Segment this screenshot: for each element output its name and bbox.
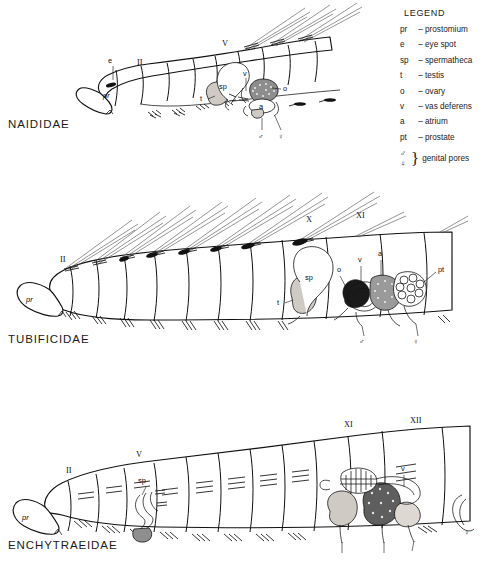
segment-numeral-x: X <box>306 215 312 224</box>
label-testis: t <box>200 94 202 103</box>
segment-numeral-ii: II <box>66 466 72 475</box>
segment-numeral-xi: XI <box>356 211 365 220</box>
oligochaete-anatomy-plate: e pr II V t sp v o a ♂ ♀ <box>0 0 499 565</box>
legend-genital-pores: ♂ ♀ } genital pores <box>400 149 499 168</box>
naididae-body <box>76 3 362 118</box>
segment-numeral-ii: II <box>60 255 66 264</box>
legend-entry-sp: sp–spermatheca <box>400 57 499 65</box>
legend-dash: – <box>416 72 425 80</box>
label-eye: e <box>108 56 112 65</box>
segment-numeral-xi: XI <box>344 420 353 429</box>
label-ovary: o <box>381 554 385 555</box>
legend-dash: – <box>416 57 425 65</box>
legend-term: spermatheca <box>425 57 472 65</box>
label-male-pore: ♂ <box>409 552 415 555</box>
tubificidae-body <box>17 192 468 330</box>
legend-title: LEGEND <box>404 8 499 18</box>
legend-dash: – <box>416 118 425 126</box>
label-ovary: o <box>337 265 341 274</box>
segment-numeral-xii: XII <box>410 416 422 425</box>
legend-rows: pr–prostomiume–eye spotsp–spermathecat–t… <box>400 26 499 142</box>
testis-organ <box>328 491 358 526</box>
legend-entry-pr: pr–prostomium <box>400 26 499 34</box>
legend-dash: – <box>416 26 425 34</box>
label-female-pore: ♀ <box>413 337 419 346</box>
label-testis: t <box>339 554 341 555</box>
brace-icon: } <box>411 152 419 166</box>
legend-abbr: pr <box>400 26 416 34</box>
legend-term: ovary <box>425 88 445 96</box>
enchytraeidae-body <box>13 426 474 543</box>
legend-term: testis <box>425 72 444 80</box>
family-label-naididae: NAIDIDAE <box>8 118 70 130</box>
male-symbol: ♂ <box>400 149 410 158</box>
legend-panel: LEGEND pr–prostomiume–eye spotsp–spermat… <box>400 8 499 168</box>
genital-pores-term: genital pores <box>422 154 469 163</box>
legend-abbr: sp <box>400 57 416 65</box>
enchytraeidae-diagram: pr II V XI XII sp v t o ♂ ♀ <box>0 395 490 555</box>
legend-abbr: v <box>400 103 416 111</box>
label-ovary: o <box>283 84 287 93</box>
label-prostate: pt <box>438 265 444 274</box>
family-label-enchytraeidae: ENCHYTRAEIDAE <box>8 539 117 551</box>
legend-term: vas deferens <box>425 103 472 111</box>
segment-numeral-v: V <box>136 450 142 459</box>
legend-abbr: t <box>400 72 416 80</box>
legend-entry-e: e–eye spot <box>400 41 499 49</box>
female-symbol: ♀ <box>400 159 410 168</box>
label-testis: t <box>277 298 279 307</box>
family-label-tubificidae: TUBIFICIDAE <box>8 333 89 345</box>
legend-abbr: pt <box>400 134 416 142</box>
label-spermatheca: sp <box>138 476 146 485</box>
label-vas-deferens: v <box>401 464 405 473</box>
legend-term: prostate <box>425 134 455 142</box>
label-prostomium: pr <box>25 295 33 304</box>
segment-numeral-ii: II <box>137 58 143 67</box>
legend-term: prostomium <box>425 26 468 34</box>
legend-term: eye spot <box>425 41 456 49</box>
label-vas-deferens: v <box>243 69 247 78</box>
naididae-diagram: e pr II V t sp v o a ♂ ♀ <box>0 0 390 180</box>
legend-dash: – <box>416 88 425 96</box>
ventral-chaetae <box>148 98 336 118</box>
label-female-pore: ♀ <box>278 132 284 141</box>
legend-dash: – <box>416 134 425 142</box>
label-male-pore: ♂ <box>359 337 365 346</box>
label-prostomium: pr <box>102 91 110 100</box>
legend-entry-a: a–atrium <box>400 118 499 126</box>
legend-abbr: a <box>400 118 416 126</box>
label-spermatheca: sp <box>219 82 227 91</box>
legend-entry-o: o–ovary <box>400 88 499 96</box>
label-female-pore: ♀ <box>464 528 470 537</box>
legend-abbr: o <box>400 88 416 96</box>
tubificidae-diagram: pr II X XI sp t o v a pt ♂ ♀ <box>0 190 470 355</box>
legend-abbr: e <box>400 41 416 49</box>
legend-entry-v: v–vas deferens <box>400 103 499 111</box>
legend-entry-t: t–testis <box>400 72 499 80</box>
legend-term: atrium <box>425 118 448 126</box>
segment-numeral-v: V <box>222 39 228 48</box>
legend-dash: – <box>416 41 425 49</box>
legend-dash: – <box>416 103 425 111</box>
label-male-pore: ♂ <box>258 132 264 141</box>
label-vas-deferens: v <box>358 255 362 264</box>
label-prostomium: pr <box>21 513 29 522</box>
label-spermatheca: sp <box>305 273 313 282</box>
prostate-organ <box>394 272 427 307</box>
legend-entry-pt: pt–prostate <box>400 134 499 142</box>
male-gland-organ <box>395 502 421 527</box>
